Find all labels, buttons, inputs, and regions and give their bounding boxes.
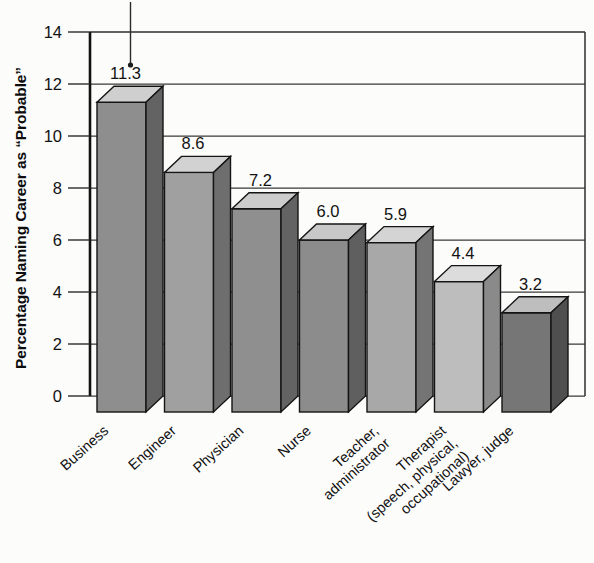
y-tick-label-6: 6 [53,231,62,249]
bar-side-face-2 [281,193,298,412]
bar-front-face-1 [165,172,214,412]
bar-front-face-6 [502,313,551,412]
y-tick-label-14: 14 [44,23,62,41]
bar-0 [97,86,163,412]
bar-5 [435,266,501,412]
bar-value-label-6: 3.2 [519,275,542,293]
bar-side-face-3 [349,224,366,412]
bar-value-label-0: 11.3 [110,64,141,82]
bar-value-label-4: 5.9 [384,205,407,223]
bar-value-label-1: 8.6 [182,134,205,152]
bar-2 [232,193,298,412]
bar-value-label-5: 4.4 [452,244,475,262]
bar-3 [300,224,366,412]
bar-front-face-5 [435,282,484,412]
y-tick-label-0: 0 [53,387,62,405]
bar-side-face-4 [416,227,433,412]
bar-4 [367,227,433,412]
bar-value-label-2: 7.2 [249,171,272,189]
bar-front-face-4 [367,243,416,412]
y-tick-label-8: 8 [53,179,62,197]
y-tick-label-10: 10 [44,127,62,145]
bar-side-face-5 [484,266,501,412]
bar-front-face-3 [300,240,349,412]
bar-chart: 02468101214 11.38.67.26.05.94.43.2 Busin… [0,0,594,563]
bar-front-face-2 [232,209,281,412]
bar-front-face-0 [97,102,146,412]
bar-side-face-6 [551,297,568,412]
y-tick-label-12: 12 [44,75,62,93]
bar-6 [502,297,568,412]
y-tick-label-4: 4 [53,283,62,301]
bar-1 [165,156,231,412]
bar-side-face-1 [214,156,231,412]
bar-side-face-0 [146,86,163,412]
y-axis-title: Percentage Naming Career as “Probable” [12,67,29,369]
bar-value-label-3: 6.0 [317,202,340,220]
chart-canvas: 02468101214 11.38.67.26.05.94.43.2 Busin… [0,0,594,563]
y-tick-label-2: 2 [53,335,62,353]
